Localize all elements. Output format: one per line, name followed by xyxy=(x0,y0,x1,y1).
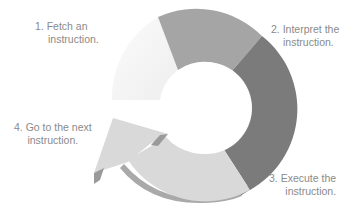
step-2-line2: instruction. xyxy=(271,36,339,49)
ring-center-hole xyxy=(160,62,252,154)
step-label-interpret: 2. Interpret the instruction. xyxy=(271,23,339,49)
step-2-line1: 2. Interpret the xyxy=(271,23,339,35)
step-4-line1: 4. Go to the next xyxy=(14,121,92,134)
step-1-line2: instruction. xyxy=(35,33,99,46)
step-4-line2: instruction. xyxy=(14,134,92,147)
instruction-cycle-diagram: 1. Fetch an instruction. 2. Interpret th… xyxy=(0,0,360,216)
step-3-line1: 3. Execute the xyxy=(269,172,336,185)
step-label-execute: 3. Execute the instruction. xyxy=(269,172,336,198)
step-label-fetch: 1. Fetch an instruction. xyxy=(35,20,99,46)
step-3-line2: instruction. xyxy=(269,185,336,198)
step-1-line1: 1. Fetch an xyxy=(35,20,88,32)
step-label-next: 4. Go to the next instruction. xyxy=(14,121,92,147)
